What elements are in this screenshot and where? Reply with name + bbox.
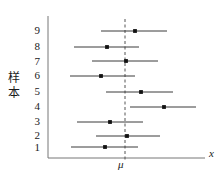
interval-row-8	[74, 45, 139, 49]
point-estimate-marker-1	[103, 145, 107, 149]
y-tick-label-8: 8	[26, 41, 40, 52]
interval-row-4	[130, 105, 196, 109]
y-tick-label-6: 6	[26, 70, 40, 81]
y-tick-label-9: 9	[26, 25, 40, 36]
y-axis-title-char-1: 样	[5, 71, 22, 86]
y-tick-label-7: 7	[26, 56, 40, 67]
y-tick-label-4: 4	[26, 101, 40, 112]
point-estimate-marker-2	[125, 134, 129, 138]
point-estimate-marker-6	[99, 74, 103, 78]
x-axis-label: x	[209, 148, 214, 159]
point-estimate-marker-3	[108, 120, 112, 124]
interval-row-1	[71, 145, 138, 149]
interval-row-5	[106, 90, 173, 94]
interval-series-group	[70, 29, 196, 149]
point-estimate-marker-5	[139, 90, 143, 94]
point-estimate-marker-8	[105, 45, 109, 49]
interval-row-2	[96, 134, 160, 138]
y-tick-label-1: 1	[26, 142, 40, 153]
confidence-interval-chart: 样 本 9 8 7 6 5 4 3 2 1 μ x	[0, 0, 224, 181]
y-tick-label-5: 5	[26, 86, 40, 97]
point-estimate-marker-4	[162, 105, 166, 109]
y-tick-label-2: 2	[26, 130, 40, 141]
mu-axis-label: μ	[118, 159, 124, 170]
point-estimate-marker-7	[124, 59, 128, 63]
y-tick-label-3: 3	[26, 116, 40, 127]
point-estimate-marker-9	[133, 29, 137, 33]
interval-row-7	[92, 59, 158, 63]
interval-row-3	[77, 120, 143, 124]
y-axis-title: 样 本	[5, 71, 22, 101]
interval-row-9	[101, 29, 167, 33]
y-axis-title-char-2: 本	[5, 86, 22, 101]
